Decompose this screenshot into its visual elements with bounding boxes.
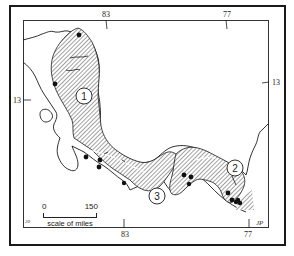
locality-dot [230,198,235,203]
scale-bar-graphic [43,213,97,218]
latitude-label-13-left: 13 [13,97,21,105]
longitude-label-77-top: 77 [223,11,231,19]
locality-dot [53,82,58,87]
longitude-label-83-top: 83 [102,11,110,19]
corner-mark-bottom-left: 20 [25,219,30,224]
locality-dot [187,182,191,186]
longitude-label-77-bottom: 77 [244,231,252,239]
scale-bar: 0 150 scale of miles [42,202,98,228]
svg-text:3: 3 [154,191,160,202]
longitude-label-83-bottom: 83 [121,231,129,239]
locality-dot [122,181,126,185]
scale-caption: scale of miles [42,219,98,228]
locality-dot [77,33,82,38]
svg-text:2: 2 [232,163,238,174]
latitude-label-13-right: 13 [272,79,280,87]
region-label-3: 3 [149,188,165,204]
locality-dot [84,155,89,160]
locality-dot [98,158,103,163]
locality-dot [97,165,102,170]
artist-initials: JP [256,219,263,227]
svg-text:1: 1 [81,91,87,102]
locality-dot [238,201,242,205]
region-label-1: 1 [76,88,92,104]
range-region-1-3 [51,28,177,191]
locality-dot [182,173,187,178]
locality-dot [189,175,194,180]
scale-start: 0 [42,202,46,211]
locality-dot [226,191,231,196]
scale-end: 150 [85,202,98,211]
